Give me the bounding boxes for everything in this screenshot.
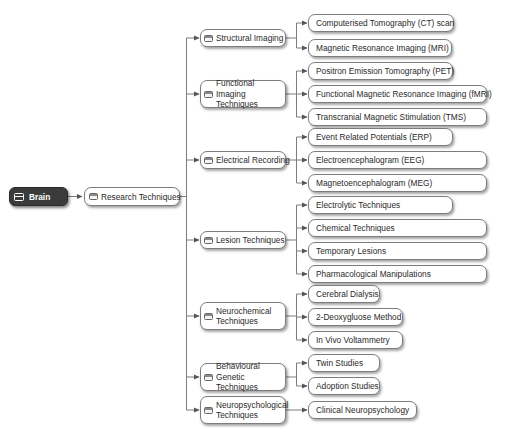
category-label: Behavioural Genetic Techniques — [216, 361, 285, 393]
category-label: Functional Imaging Techniques — [216, 78, 285, 110]
category-label: Structural Imaging — [216, 33, 283, 43]
category-behavioural-genetic[interactable]: Behavioural Genetic Techniques — [200, 363, 286, 391]
topic-icon — [204, 407, 213, 414]
topic-icon — [204, 374, 213, 381]
topic-icon — [204, 313, 213, 320]
leaf-label: Adoption Studies — [316, 381, 379, 391]
topic-icon — [204, 157, 213, 164]
leaf-label: Transcranial Magnetic Stimulation (TMS) — [316, 112, 466, 122]
leaf-label: Computerised Tomography (CT) scan — [316, 18, 454, 28]
category-structural-imaging[interactable]: Structural Imaging — [200, 29, 286, 47]
leaf-label: Magnetic Resonance Imaging (MRI) — [316, 43, 449, 53]
leaf-twin-studies[interactable]: Twin Studies — [308, 354, 380, 372]
category-label: Neurochemical Techniques — [216, 306, 285, 327]
leaf-label: Chemical Techniques — [316, 223, 395, 233]
leaf-pet[interactable]: Positron Emission Tomography (PET) — [308, 62, 453, 80]
topic-icon — [204, 237, 213, 244]
topic-icon — [204, 91, 213, 98]
leaf-pharmacological[interactable]: Pharmacological Manipulations — [308, 265, 487, 283]
category-neuropsychological[interactable]: Neuropsychological Techniques — [200, 396, 286, 424]
category-label: Lesion Techniques — [216, 235, 285, 245]
leaf-label: Electroencephalogram (EEG) — [316, 155, 424, 165]
root-label: Brain — [29, 192, 50, 202]
leaf-2-deoxyglucose[interactable]: 2-Deoxygluose Method — [308, 308, 403, 326]
leaf-fmri[interactable]: Functional Magnetic Resonance Imaging (f… — [308, 85, 487, 103]
leaf-in-vivo-voltammetry[interactable]: In Vivo Voltammetry — [308, 331, 403, 349]
leaf-meg[interactable]: Magnetoencephalogram (MEG) — [308, 174, 487, 192]
leaf-chemical[interactable]: Chemical Techniques — [308, 219, 487, 237]
leaf-clinical-neuropsychology[interactable]: Clinical Neuropsychology — [308, 401, 417, 419]
leaf-tms[interactable]: Transcranial Magnetic Stimulation (TMS) — [308, 108, 487, 126]
leaf-temporary-lesions[interactable]: Temporary Lesions — [308, 242, 487, 260]
category-lesion-techniques[interactable]: Lesion Techniques — [200, 231, 286, 249]
leaf-adoption-studies[interactable]: Adoption Studies — [308, 377, 380, 395]
leaf-label: Clinical Neuropsychology — [316, 405, 409, 415]
leaf-mri[interactable]: Magnetic Resonance Imaging (MRI) — [308, 39, 452, 57]
leaf-label: In Vivo Voltammetry — [316, 335, 390, 345]
leaf-label: Pharmacological Manipulations — [316, 269, 431, 279]
node-research-techniques[interactable]: Research Techniques — [84, 187, 180, 206]
mind-map-canvas: Brain Research Techniques Structural Ima… — [0, 0, 505, 439]
leaf-label: Cerebral Dialysis — [316, 289, 379, 299]
leaf-cerebral-dialysis[interactable]: Cerebral Dialysis — [308, 285, 380, 303]
node-label: Research Techniques — [101, 192, 181, 202]
leaf-label: 2-Deoxygluose Method — [316, 312, 401, 322]
category-electrical-recording[interactable]: Electrical Recording — [200, 151, 286, 169]
leaf-label: Twin Studies — [316, 358, 363, 368]
leaf-label: Temporary Lesions — [316, 246, 386, 256]
leaf-label: Magnetoencephalogram (MEG) — [316, 178, 432, 188]
category-functional-imaging[interactable]: Functional Imaging Techniques — [200, 80, 286, 108]
topic-icon — [89, 193, 98, 200]
topic-icon — [204, 35, 213, 42]
leaf-label: Functional Magnetic Resonance Imaging (f… — [316, 89, 492, 99]
leaf-electrolytic[interactable]: Electrolytic Techniques — [308, 196, 453, 214]
leaf-erp[interactable]: Event Related Potentials (ERP) — [308, 128, 453, 146]
leaf-eeg[interactable]: Electroencephalogram (EEG) — [308, 151, 487, 169]
leaf-label: Electrolytic Techniques — [316, 200, 400, 210]
leaf-label: Positron Emission Tomography (PET) — [316, 66, 454, 76]
category-neurochemical-techniques[interactable]: Neurochemical Techniques — [200, 302, 286, 330]
category-label: Electrical Recording — [216, 155, 290, 165]
leaf-ct-scan[interactable]: Computerised Tomography (CT) scan — [308, 14, 454, 32]
topic-collapse-icon[interactable] — [14, 193, 24, 201]
root-node-brain[interactable]: Brain — [9, 187, 68, 206]
leaf-label: Event Related Potentials (ERP) — [316, 132, 432, 142]
category-label: Neuropsychological Techniques — [216, 400, 288, 421]
